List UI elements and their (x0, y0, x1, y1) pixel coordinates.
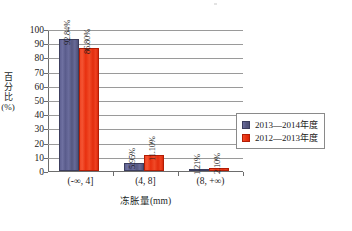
data-label: 92.84% (63, 20, 72, 45)
series-0-swatch-icon (242, 121, 250, 129)
bar-series-1-category-0 (79, 48, 99, 171)
y-axis-tick-mark (44, 115, 48, 116)
y-axis-tick-label: 30 (16, 125, 44, 134)
legend-item-series-0: 2013—2014年度 (242, 118, 318, 131)
y-axis-tick-mark (44, 101, 48, 102)
y-axis-tick-label: 50 (16, 97, 44, 106)
y-axis-tick-mark (44, 58, 48, 59)
x-axis-tick-mark (243, 172, 244, 176)
y-axis-tick-label: 80 (16, 54, 44, 63)
y-axis-tick-mark (44, 129, 48, 130)
chart-legend: 2013—2014年度 2012—2013年度 (236, 113, 325, 149)
y-axis-tick-label: 100 (16, 26, 44, 35)
legend-item-series-1: 2012—2013年度 (242, 131, 318, 144)
bar-chart: 百分比(%) 0102030405060708090100 92.84%86.8… (0, 0, 352, 231)
y-axis-tick-label: 60 (16, 82, 44, 91)
y-axis-tick-label: 40 (16, 111, 44, 120)
y-axis-tick-mark (44, 172, 48, 173)
plot-area: 92.84%86.80%5.95%11.10%1.21%2.10% (48, 30, 243, 172)
series-1-swatch-icon (242, 134, 250, 142)
gridline (48, 30, 243, 31)
y-axis-tick-mark (44, 144, 48, 145)
y-axis-tick-label: 20 (16, 139, 44, 148)
x-axis-category-label: (4, 8] (113, 176, 178, 187)
y-axis-tick-label: 0 (16, 168, 44, 177)
data-label: 11.10% (148, 137, 157, 162)
data-label: 2.10% (213, 153, 222, 174)
y-axis-tick-label: 10 (16, 153, 44, 162)
y-axis-tick-label: 70 (16, 68, 44, 77)
x-axis-category-label: (8, +∞) (178, 176, 243, 187)
y-axis-tick-mark (44, 30, 48, 31)
y-axis-tick-mark (44, 73, 48, 74)
data-label: 1.21% (193, 154, 202, 175)
data-label: 5.95% (128, 148, 137, 169)
y-axis-tick-mark (44, 87, 48, 88)
y-axis-tick-mark (44, 44, 48, 45)
bar-series-0-category-0 (59, 39, 79, 171)
y-axis-tick-label: 90 (16, 40, 44, 49)
scan-artifact (214, 3, 217, 5)
y-axis-tick-mark (44, 158, 48, 159)
x-axis-category-label: (-∞, 4] (48, 176, 113, 187)
y-axis-tick-labels: 0102030405060708090100 (16, 30, 44, 172)
legend-item-label: 2012—2013年度 (255, 133, 318, 143)
legend-item-label: 2013—2014年度 (255, 120, 318, 130)
y-axis-title: 百分比(%) (1, 72, 15, 112)
data-label: 86.80% (83, 29, 92, 54)
x-axis-title: 冻胀量(mm) (48, 196, 243, 207)
